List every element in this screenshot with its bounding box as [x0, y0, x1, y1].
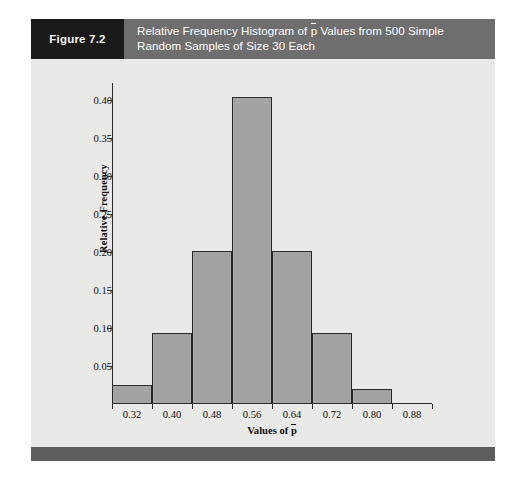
axes-frame [112, 83, 432, 404]
figure-number-label: Figure 7.2 [49, 33, 105, 45]
x-tick-label: 0.88 [390, 409, 434, 420]
x-tick-label: 0.64 [270, 409, 314, 420]
y-tick-mark [107, 328, 112, 329]
y-tick-mark [107, 100, 112, 101]
plot-area: Relative Frequency 0.400.350.300.250.200… [31, 59, 495, 421]
x-tick-label: 0.80 [350, 409, 394, 420]
figure-title-line2: Random Samples of Size 30 Each [137, 39, 315, 52]
histogram-bar [232, 97, 272, 404]
histogram-bar [312, 333, 352, 404]
figure-header: Figure 7.2 Relative Frequency Histogram … [31, 19, 495, 59]
figure-title-box: Relative Frequency Histogram of p Values… [124, 19, 495, 59]
histogram-bar [352, 389, 392, 404]
x-tick-label: 0.32 [110, 409, 154, 420]
figure-card: Figure 7.2 Relative Frequency Histogram … [31, 19, 495, 461]
x-tick-label: 0.48 [190, 409, 234, 420]
histogram-bar [152, 333, 192, 404]
y-tick-mark [107, 176, 112, 177]
x-tick-label: 0.56 [230, 409, 274, 420]
histogram-bars [112, 83, 432, 404]
histogram-bar [192, 251, 232, 404]
figure-footer-bar [31, 447, 495, 461]
histogram-bar [112, 385, 152, 404]
figure-number-box: Figure 7.2 [31, 19, 124, 59]
histogram-bar [272, 251, 312, 404]
p-bar-symbol-title: p [311, 24, 318, 39]
y-tick-mark [107, 214, 112, 215]
y-tick-mark [107, 138, 112, 139]
x-axis-tick-labels: 0.320.400.480.560.640.720.800.88 [112, 409, 442, 425]
p-bar-symbol-xlabel: p [291, 425, 297, 436]
figure-title-text: Relative Frequency Histogram of p Values… [137, 24, 444, 53]
x-axis-title-prefix: Values of [247, 425, 291, 436]
figure-title-part-a: Relative Frequency Histogram of [137, 24, 311, 37]
y-tick-mark [107, 290, 112, 291]
x-tick-label: 0.40 [150, 409, 194, 420]
y-tick-mark [107, 252, 112, 253]
y-tick-mark [107, 366, 112, 367]
x-axis-title: Values of p [112, 425, 432, 436]
x-tick-label: 0.72 [310, 409, 354, 420]
figure-title-part-b: Values from 500 Simple [317, 24, 444, 37]
